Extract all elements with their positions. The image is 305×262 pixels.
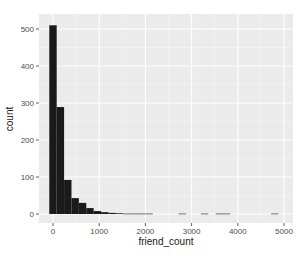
histogram-bar (101, 212, 108, 214)
y-tick-label: 200 (21, 136, 35, 145)
x-tick-label: 1000 (90, 227, 108, 236)
histogram-bar (201, 214, 208, 215)
histogram-bar (94, 211, 101, 214)
histogram-bar (145, 214, 152, 215)
x-tick-label: 3000 (183, 227, 201, 236)
x-tick-label: 2000 (137, 227, 155, 236)
histogram-bar (271, 214, 278, 215)
histogram-bar (86, 208, 93, 214)
x-tick-label: 4000 (229, 227, 247, 236)
plot-panel (39, 14, 293, 223)
histogram-bar (138, 214, 145, 215)
histogram-bar (131, 214, 138, 215)
histogram-bar (216, 214, 223, 215)
histogram-bar (79, 203, 86, 214)
histogram-bar (57, 107, 64, 214)
x-axis: 010002000300040005000 (51, 223, 294, 236)
x-axis-title: friend_count (138, 236, 193, 247)
histogram-bar (64, 180, 71, 214)
x-tick-label: 0 (51, 227, 56, 236)
y-tick-label: 300 (21, 99, 35, 108)
histogram-bar (116, 213, 123, 214)
histogram-bar (71, 198, 78, 214)
y-axis-title: count (4, 107, 15, 132)
y-tick-label: 100 (21, 173, 35, 182)
y-axis: 0100200300400500 (21, 25, 39, 219)
histogram-bar (108, 213, 115, 214)
y-tick-label: 500 (21, 25, 35, 34)
histogram-bar (123, 214, 130, 215)
histogram-bar (179, 214, 186, 215)
y-tick-label: 0 (30, 210, 35, 219)
y-tick-label: 400 (21, 62, 35, 71)
histogram-bar (49, 25, 56, 214)
x-tick-label: 5000 (275, 227, 293, 236)
histogram-bar (223, 214, 230, 215)
histogram-chart: 0100200300400500 010002000300040005000 f… (0, 0, 305, 262)
